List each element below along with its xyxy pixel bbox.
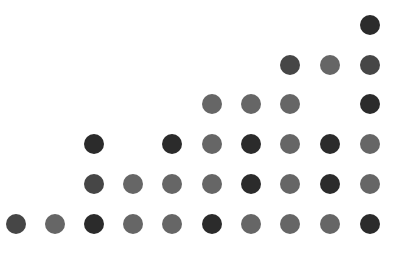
- grid-dot: [84, 134, 104, 154]
- grid-dot: [123, 174, 143, 194]
- grid-dot: [241, 174, 261, 194]
- grid-dot: [45, 214, 65, 234]
- grid-dot: [123, 214, 143, 234]
- grid-dot: [241, 214, 261, 234]
- grid-dot: [6, 214, 26, 234]
- grid-dot: [320, 134, 340, 154]
- grid-dot: [280, 174, 300, 194]
- grid-dot: [202, 214, 222, 234]
- grid-dot: [320, 55, 340, 75]
- grid-dot: [280, 214, 300, 234]
- grid-dot: [360, 134, 380, 154]
- grid-dot: [280, 55, 300, 75]
- grid-dot: [84, 174, 104, 194]
- grid-dot: [84, 214, 104, 234]
- grid-dot: [360, 174, 380, 194]
- dot-grid: [0, 0, 398, 262]
- grid-dot: [360, 214, 380, 234]
- grid-dot: [280, 134, 300, 154]
- grid-dot: [241, 94, 261, 114]
- grid-dot: [202, 94, 222, 114]
- grid-dot: [280, 94, 300, 114]
- grid-dot: [360, 55, 380, 75]
- grid-dot: [202, 134, 222, 154]
- grid-dot: [162, 214, 182, 234]
- grid-dot: [162, 134, 182, 154]
- grid-dot: [320, 174, 340, 194]
- grid-dot: [241, 134, 261, 154]
- grid-dot: [360, 94, 380, 114]
- grid-dot: [320, 214, 340, 234]
- grid-dot: [202, 174, 222, 194]
- grid-dot: [360, 15, 380, 35]
- grid-dot: [162, 174, 182, 194]
